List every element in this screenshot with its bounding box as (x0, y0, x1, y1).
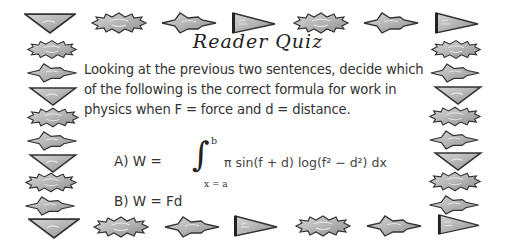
burst-icon (92, 216, 150, 238)
burst-icon (428, 171, 482, 192)
integral-expression: π sin(f + d) log(f² − d²) dx (224, 155, 387, 170)
burst-icon (428, 106, 482, 127)
question-line: of the following is the correct formula … (84, 80, 424, 100)
down-triangle-icon (432, 152, 484, 171)
star-icon (429, 130, 479, 150)
down-triangle-icon (28, 87, 78, 106)
star-icon (366, 215, 422, 237)
integral-upper-bound: b (211, 135, 217, 146)
integral-symbol: ∫ (192, 137, 210, 171)
option-b: B) W = Fd (114, 193, 182, 209)
star-icon (26, 131, 78, 151)
down-triangle-icon (28, 154, 78, 173)
integral-lower-bound: x = a (204, 179, 228, 189)
star-icon (164, 216, 220, 238)
question-line: physics when F = force and d = distance. (84, 100, 424, 120)
quiz-title: Reader Quiz (188, 30, 328, 52)
burst-icon (294, 215, 352, 237)
burst-icon (90, 12, 148, 34)
star-icon (430, 63, 480, 83)
burst-icon (24, 172, 78, 193)
pennant-icon (232, 215, 278, 237)
burst-icon (26, 39, 78, 60)
star-icon (363, 12, 419, 34)
star-icon (428, 195, 480, 215)
question-text: Looking at the previous two sentences, d… (84, 60, 424, 120)
burst-icon (26, 107, 80, 128)
star-icon (24, 196, 76, 216)
star-icon (26, 63, 78, 83)
option-a-label: A) W = (114, 153, 162, 169)
pennant-icon (433, 12, 479, 34)
down-triangle-icon (433, 86, 483, 105)
question-line: Looking at the previous two sentences, d… (84, 60, 424, 80)
down-triangle-icon (24, 13, 76, 34)
pennant-icon (436, 214, 480, 235)
down-triangle-icon (28, 218, 80, 239)
burst-icon (430, 39, 482, 60)
